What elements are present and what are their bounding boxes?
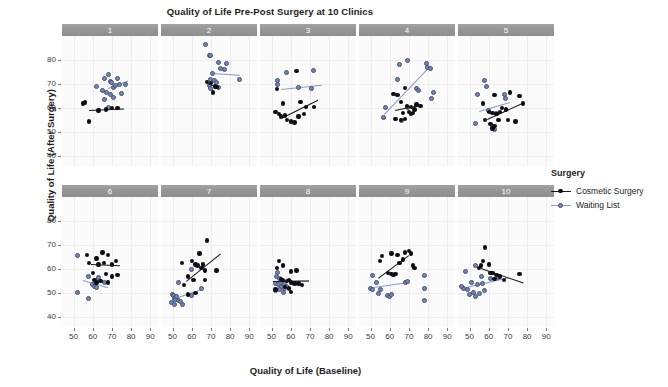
data-points xyxy=(260,197,356,327)
y-axis-tick-label: 80 xyxy=(30,216,56,225)
data-point-cosmetic-surgery xyxy=(83,100,87,104)
data-point-waiting-list xyxy=(309,86,314,91)
data-point-waiting-list xyxy=(405,58,410,63)
facet-panel[interactable] xyxy=(161,197,257,327)
legend-item-cosmetic-surgery[interactable]: Cosmetic Surgery xyxy=(551,184,667,198)
facet-panel[interactable] xyxy=(359,36,455,166)
x-axis-tick-mark xyxy=(310,328,311,331)
data-point-cosmetic-surgery xyxy=(401,257,405,261)
y-axis-tick-mark xyxy=(58,156,61,157)
data-point-waiting-list xyxy=(86,296,91,301)
facet-strip-label: 5 xyxy=(458,24,554,36)
data-point-cosmetic-surgery xyxy=(294,268,298,272)
data-point-waiting-list xyxy=(479,274,484,279)
x-axis-tick-mark xyxy=(390,328,391,331)
facet-panel[interactable] xyxy=(458,197,554,327)
facet-strip-label: 3 xyxy=(260,24,356,36)
x-axis-tick-label: 90 xyxy=(340,332,356,341)
data-point-waiting-list xyxy=(172,302,177,307)
data-point-waiting-list xyxy=(119,91,124,96)
data-point-cosmetic-surgery xyxy=(298,100,302,104)
facet-strip-text: 8 xyxy=(306,187,310,196)
data-point-cosmetic-surgery xyxy=(94,256,98,260)
facet-panel[interactable] xyxy=(62,197,158,327)
data-point-waiting-list xyxy=(123,82,128,87)
trend-line-waiting-list xyxy=(211,73,240,76)
data-point-cosmetic-surgery xyxy=(300,283,304,287)
data-point-waiting-list xyxy=(284,70,289,75)
facet-panel[interactable] xyxy=(62,36,158,166)
facet-strip-text: 1 xyxy=(108,26,112,35)
data-point-cosmetic-surgery xyxy=(403,117,407,121)
data-point-cosmetic-surgery xyxy=(481,101,485,105)
x-axis-tick-mark xyxy=(272,328,273,331)
x-axis-tick-mark xyxy=(230,328,231,331)
facet-strip-text: 10 xyxy=(502,187,511,196)
data-point-waiting-list xyxy=(75,253,80,258)
data-point-waiting-list xyxy=(374,280,379,285)
data-point-waiting-list xyxy=(431,90,436,95)
data-point-cosmetic-surgery xyxy=(483,245,487,249)
legend-item-waiting-list[interactable]: Waiting List xyxy=(551,198,667,212)
data-point-waiting-list xyxy=(275,78,280,83)
y-axis-tick-mark xyxy=(58,293,61,294)
y-axis-tick-mark xyxy=(58,60,61,61)
y-axis-tick-label: 80 xyxy=(30,55,56,64)
facet-panel[interactable] xyxy=(161,36,257,166)
data-point-cosmetic-surgery xyxy=(96,108,100,112)
data-point-cosmetic-surgery xyxy=(115,106,119,110)
data-point-cosmetic-surgery xyxy=(312,105,316,109)
x-axis-tick-label: 80 xyxy=(420,332,436,341)
data-point-waiting-list xyxy=(311,68,316,73)
x-axis-tick-label: 50 xyxy=(462,332,478,341)
data-point-cosmetic-surgery xyxy=(389,251,393,255)
x-axis-tick-mark xyxy=(173,328,174,331)
x-axis-tick-mark xyxy=(112,328,113,331)
facet-strip-text: 4 xyxy=(405,26,409,35)
x-axis-tick-label: 80 xyxy=(123,332,139,341)
data-point-waiting-list xyxy=(482,288,487,293)
facet-panel[interactable] xyxy=(260,197,356,327)
data-points xyxy=(161,197,257,327)
x-axis-tick-mark xyxy=(131,328,132,331)
data-point-waiting-list xyxy=(370,287,375,292)
data-point-cosmetic-surgery xyxy=(477,266,481,270)
legend-key-cosmetic-surgery xyxy=(551,186,571,196)
data-point-cosmetic-surgery xyxy=(275,87,279,91)
data-point-cosmetic-surgery xyxy=(110,274,114,278)
data-points xyxy=(62,197,158,327)
x-axis-tick-label: 70 xyxy=(401,332,417,341)
data-point-cosmetic-surgery xyxy=(490,126,494,130)
data-point-cosmetic-surgery xyxy=(193,291,197,295)
data-point-cosmetic-surgery xyxy=(203,268,207,272)
data-point-waiting-list xyxy=(422,298,427,303)
y-axis-tick-label: 40 xyxy=(30,312,56,321)
data-point-waiting-list xyxy=(383,105,388,110)
facet-panel[interactable] xyxy=(260,36,356,166)
data-point-cosmetic-surgery xyxy=(302,112,306,116)
data-point-waiting-list xyxy=(395,77,400,82)
x-axis-title: Quality of Life (Baseline) xyxy=(62,365,549,376)
data-point-waiting-list xyxy=(370,273,375,278)
data-point-waiting-list xyxy=(473,294,478,299)
trend-line-waiting-list xyxy=(281,85,321,90)
x-axis-tick-label: 60 xyxy=(283,332,299,341)
x-axis-tick-mark xyxy=(150,328,151,331)
data-point-waiting-list xyxy=(422,286,427,291)
legend-label-cosmetic-surgery: Cosmetic Surgery xyxy=(576,186,644,196)
data-point-cosmetic-surgery xyxy=(289,269,293,273)
x-axis-tick-label: 90 xyxy=(538,332,554,341)
data-points xyxy=(359,197,455,327)
facet-panel[interactable] xyxy=(359,197,455,327)
data-point-cosmetic-surgery xyxy=(395,253,399,257)
data-point-cosmetic-surgery xyxy=(492,277,496,281)
data-point-waiting-list xyxy=(381,115,386,120)
data-point-cosmetic-surgery xyxy=(397,261,401,265)
data-point-cosmetic-surgery xyxy=(409,112,413,116)
x-axis-tick-mark xyxy=(348,328,349,331)
data-point-waiting-list xyxy=(199,286,204,291)
data-point-waiting-list xyxy=(94,84,99,89)
data-point-cosmetic-surgery xyxy=(378,259,382,263)
x-axis-tick-label: 60 xyxy=(85,332,101,341)
facet-panel[interactable] xyxy=(458,36,554,166)
